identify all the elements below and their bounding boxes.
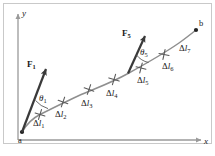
theta-5-label: θ5	[140, 48, 148, 58]
segment-6-sub: 6	[170, 65, 173, 72]
segment-1-sub: 1	[41, 122, 44, 129]
end-point-label: b	[199, 19, 203, 28]
segment-6-label: Δl6	[162, 62, 174, 72]
theta-5-subscript: 5	[144, 51, 147, 58]
force-1-subscript: 1	[33, 63, 36, 70]
segment-1-label: Δl1	[33, 119, 45, 129]
segment-3-sub: 3	[89, 102, 92, 109]
force-vector-5-label: F5	[122, 29, 131, 39]
segment-5-label: Δl5	[137, 76, 149, 86]
end-point-dot	[194, 28, 198, 32]
force-5-subscript: 5	[128, 32, 131, 39]
figure-canvas	[0, 0, 215, 156]
segment-4-label: Δl4	[106, 89, 118, 99]
force-vector-1-label: F1	[27, 60, 36, 70]
start-point-label: a	[18, 136, 22, 145]
theta-1-subscript: 1	[43, 97, 46, 104]
segment-4-sub: 4	[114, 92, 117, 99]
theta-1-label: θ1	[39, 94, 47, 104]
path-curve	[22, 30, 196, 132]
segment-3-label: Δl3	[81, 99, 93, 109]
x-axis-label: x	[204, 137, 208, 146]
segment-7-sub: 7	[187, 47, 190, 54]
segment-5-sub: 5	[145, 79, 148, 86]
segment-7-label: Δl7	[179, 44, 191, 54]
y-axis-label: y	[22, 9, 26, 18]
physics-figure: y x a b F1 F5 θ1 θ5 Δl1 Δl2 Δl3 Δl4 Δl5 …	[0, 0, 215, 156]
segment-2-label: Δl2	[55, 110, 67, 120]
segment-2-sub: 2	[63, 113, 66, 120]
